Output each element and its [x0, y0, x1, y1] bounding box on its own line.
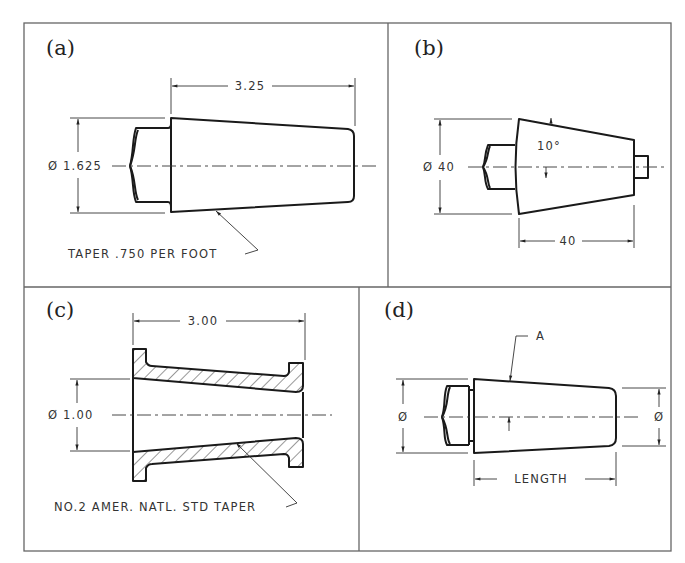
- panel-a-label: (a): [46, 36, 75, 60]
- panel-d-tapered-body: [474, 379, 616, 453]
- panel-a-tapered-body: [171, 118, 354, 212]
- panel-c: (c) 3.00 Ø 1.00 NO.2 AMER. NATL. STD TAP…: [46, 298, 332, 514]
- panel-a-taper-note: TAPER .750 PER FOOT: [67, 247, 218, 261]
- panel-b-angle-dimension: 10°: [537, 139, 561, 153]
- panel-d-callout-a: A: [536, 329, 545, 343]
- panel-c-label: (c): [46, 298, 74, 322]
- panel-b-label: (b): [414, 36, 444, 60]
- panel-a-length-dimension: 3.25: [235, 79, 265, 93]
- panel-b: (b) 10° Ø 40 40: [414, 36, 668, 248]
- taper-dimensioning-figure: (a) 3.25 Ø 1.625 TAPER .750 PER FOOT (b): [0, 0, 685, 563]
- panel-b-tapered-body: [516, 119, 635, 214]
- panel-a-diameter-dimension: Ø 1.625: [48, 159, 102, 173]
- panel-d-right-diameter: Ø: [654, 410, 664, 424]
- panel-c-upper-section: [133, 349, 303, 392]
- panel-c-length-dimension: 3.00: [188, 314, 218, 328]
- panel-a: (a) 3.25 Ø 1.625 TAPER .750 PER FOOT: [46, 36, 378, 261]
- panel-d-left-diameter: Ø: [398, 410, 408, 424]
- panel-c-diameter-dimension: Ø 1.00: [48, 408, 94, 422]
- figure-frame: [24, 23, 671, 551]
- panel-b-length-dimension: 40: [559, 234, 576, 248]
- panel-d-shaft: [442, 386, 469, 445]
- panel-b-diameter-dimension: Ø 40: [423, 160, 455, 174]
- panel-c-lower-section: [133, 438, 303, 481]
- panel-d-label: (d): [384, 298, 414, 322]
- panel-c-taper-note: NO.2 AMER. NATL. STD TAPER: [54, 500, 256, 514]
- panel-d-length-dimension: LENGTH: [514, 472, 568, 486]
- panel-d: (d) A Ø Ø LENGTH: [384, 298, 666, 486]
